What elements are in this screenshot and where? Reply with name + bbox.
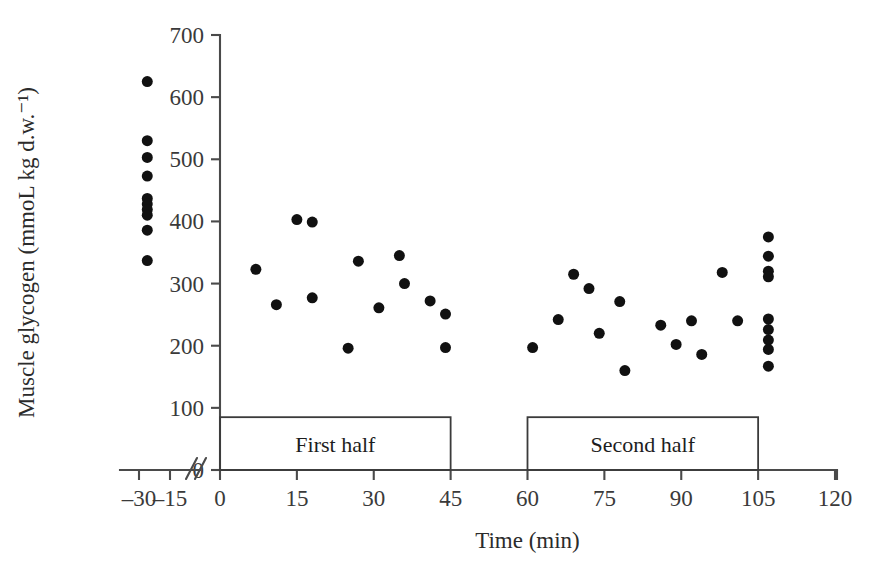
data-point bbox=[671, 339, 682, 350]
data-point bbox=[250, 264, 261, 275]
y-axis-tick-label: 300 bbox=[170, 272, 205, 297]
data-point bbox=[142, 210, 153, 221]
x-axis-tick-label: 45 bbox=[439, 486, 462, 511]
x-axis-tick-label: 15 bbox=[285, 486, 308, 511]
scatter-plot-figure: 0100200300400500600700–30–15015304560759… bbox=[0, 0, 874, 565]
data-point bbox=[343, 343, 354, 354]
data-point bbox=[142, 225, 153, 236]
data-point bbox=[440, 309, 451, 320]
x-axis-tick-label: 120 bbox=[818, 486, 853, 511]
x-axis-tick-label: 30 bbox=[362, 486, 385, 511]
data-point bbox=[425, 295, 436, 306]
data-point bbox=[307, 292, 318, 303]
x-axis-tick-label: –15 bbox=[152, 486, 188, 511]
y-axis-tick-label: 100 bbox=[170, 396, 205, 421]
x-axis-title: Time (min) bbox=[475, 528, 580, 553]
data-point bbox=[763, 313, 774, 324]
data-point bbox=[655, 320, 666, 331]
data-point bbox=[696, 349, 707, 360]
data-point bbox=[142, 171, 153, 182]
period-box-label: First half bbox=[295, 432, 376, 457]
data-point bbox=[291, 214, 302, 225]
data-point bbox=[594, 328, 605, 339]
data-point bbox=[307, 217, 318, 228]
chart-canvas: 0100200300400500600700–30–15015304560759… bbox=[0, 0, 874, 565]
data-point bbox=[717, 267, 728, 278]
y-axis-tick-label: 200 bbox=[170, 334, 205, 359]
data-point bbox=[732, 315, 743, 326]
data-point bbox=[763, 361, 774, 372]
data-point bbox=[614, 296, 625, 307]
y-axis-tick-label: 600 bbox=[170, 85, 205, 110]
data-point bbox=[763, 324, 774, 335]
data-point bbox=[553, 314, 564, 325]
data-point bbox=[353, 256, 364, 267]
data-point bbox=[527, 342, 538, 353]
y-axis-tick-label: 700 bbox=[170, 23, 205, 48]
data-point bbox=[763, 251, 774, 262]
x-axis-tick-label: –30 bbox=[121, 486, 157, 511]
data-point bbox=[763, 344, 774, 355]
data-point bbox=[394, 250, 405, 261]
data-point bbox=[399, 278, 410, 289]
data-point bbox=[568, 269, 579, 280]
y-axis-tick-label: 500 bbox=[170, 147, 205, 172]
data-point bbox=[584, 283, 595, 294]
data-point bbox=[440, 342, 451, 353]
x-axis-tick-label: 90 bbox=[670, 486, 693, 511]
data-point bbox=[142, 135, 153, 146]
y-axis-title: Muscle glycogen (mmoL kg d.w.⁻¹) bbox=[14, 87, 39, 418]
data-point bbox=[142, 152, 153, 163]
x-axis-tick-label: 75 bbox=[593, 486, 616, 511]
data-point bbox=[373, 302, 384, 313]
data-point bbox=[686, 315, 697, 326]
x-axis-tick-label: 60 bbox=[516, 486, 539, 511]
data-series-muscle-glycogen bbox=[142, 76, 774, 376]
x-axis-tick-label: 0 bbox=[214, 486, 226, 511]
data-point bbox=[271, 299, 282, 310]
y-axis-tick-label: 400 bbox=[170, 209, 205, 234]
x-axis-tick-label: 105 bbox=[741, 486, 776, 511]
data-point bbox=[619, 365, 630, 376]
data-point bbox=[763, 271, 774, 282]
data-point bbox=[763, 231, 774, 242]
data-point bbox=[142, 76, 153, 87]
period-box-label: Second half bbox=[591, 432, 696, 457]
data-point bbox=[142, 255, 153, 266]
